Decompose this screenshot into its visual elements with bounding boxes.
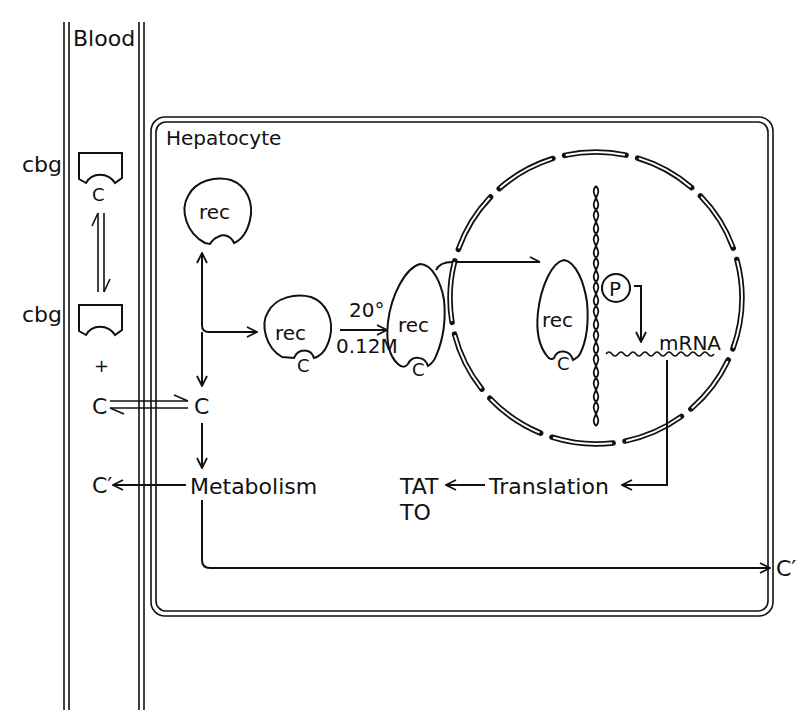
cbg-bottom-shape [79,305,122,335]
nuclear-envelope [450,152,742,444]
cytoplasm-cortisol: C [194,394,209,419]
receptor-free-label: rec [199,200,230,224]
receptor-dna-ligand: C [557,353,570,374]
activation-temperature: 20° [349,298,384,322]
metabolite-efflux-arrow [202,500,770,568]
cbg-bottom-label: cbg [22,302,62,327]
cbg-top-shape [79,153,122,183]
product-tat: TAT [399,474,439,499]
promoter-label: P [609,277,621,301]
receptor-branch-arrows [202,253,257,386]
glucocorticoid-pathway-diagram: Blood Hepatocyte cbg C cbg + C C′ rec C … [0,0,810,725]
cell-metabolite: C′ [776,556,796,581]
blood-free-cortisol: C [92,394,107,419]
cortisol-exchange-arrows [110,395,188,414]
blood-metabolite: C′ [92,473,112,498]
mrna-export-arrow [622,360,667,485]
hepatocyte-label: Hepatocyte [166,126,281,150]
cbg-top-label: cbg [22,152,62,177]
metabolism-label: Metabolism [190,474,317,499]
receptor-bound-ligand: C [297,355,310,376]
cbg-equilibrium-arrows [92,213,110,292]
translation-label: Translation [488,474,609,499]
receptor-activated-ligand: C [412,359,425,380]
receptor-bound-label: rec [275,321,306,345]
blood-label: Blood [73,26,135,51]
receptor-dna-bound-label: rec [542,308,573,332]
cbg-top-bound-cortisol: C [92,184,105,205]
product-to: TO [399,500,431,525]
transcription-arrow [634,286,641,342]
blood-vessel-wall-right [139,22,144,710]
mrna-label: mRNA [659,331,721,355]
receptor-activated-label: rec [398,313,429,337]
hepatocyte-membrane [151,117,773,616]
plus-sign: + [94,355,109,376]
dna-double-helix [594,186,599,426]
blood-vessel-wall-left [64,22,69,710]
